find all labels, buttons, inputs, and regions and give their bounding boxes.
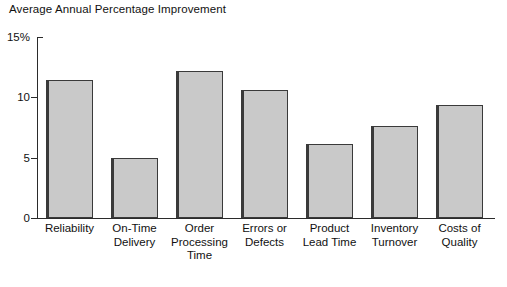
bar-1	[46, 80, 93, 218]
y-axis-tick-0	[31, 218, 37, 219]
bar-4	[241, 90, 288, 218]
x-axis-category-labels: ReliabilityOn-Time DeliveryOrder Process…	[37, 222, 495, 284]
category-label-7: Costs of Quality	[415, 222, 505, 249]
y-axis-tick-5	[31, 158, 37, 159]
chart-title: Average Annual Percentage Improvement	[9, 3, 226, 15]
bar-2	[111, 158, 158, 218]
y-axis-label-10: 10	[0, 91, 30, 103]
bar-5	[306, 144, 353, 218]
bar-6	[371, 126, 418, 218]
y-axis-tick-10	[31, 97, 37, 98]
bar-3	[176, 71, 223, 218]
y-axis-label-5: 5	[0, 152, 30, 164]
x-axis-line	[37, 218, 495, 219]
y-axis-label-15%: 15%	[0, 31, 30, 43]
bar-chart: Average Annual Percentage Improvement 05…	[0, 0, 507, 287]
bars-container	[37, 37, 495, 218]
bar-7	[436, 105, 483, 218]
